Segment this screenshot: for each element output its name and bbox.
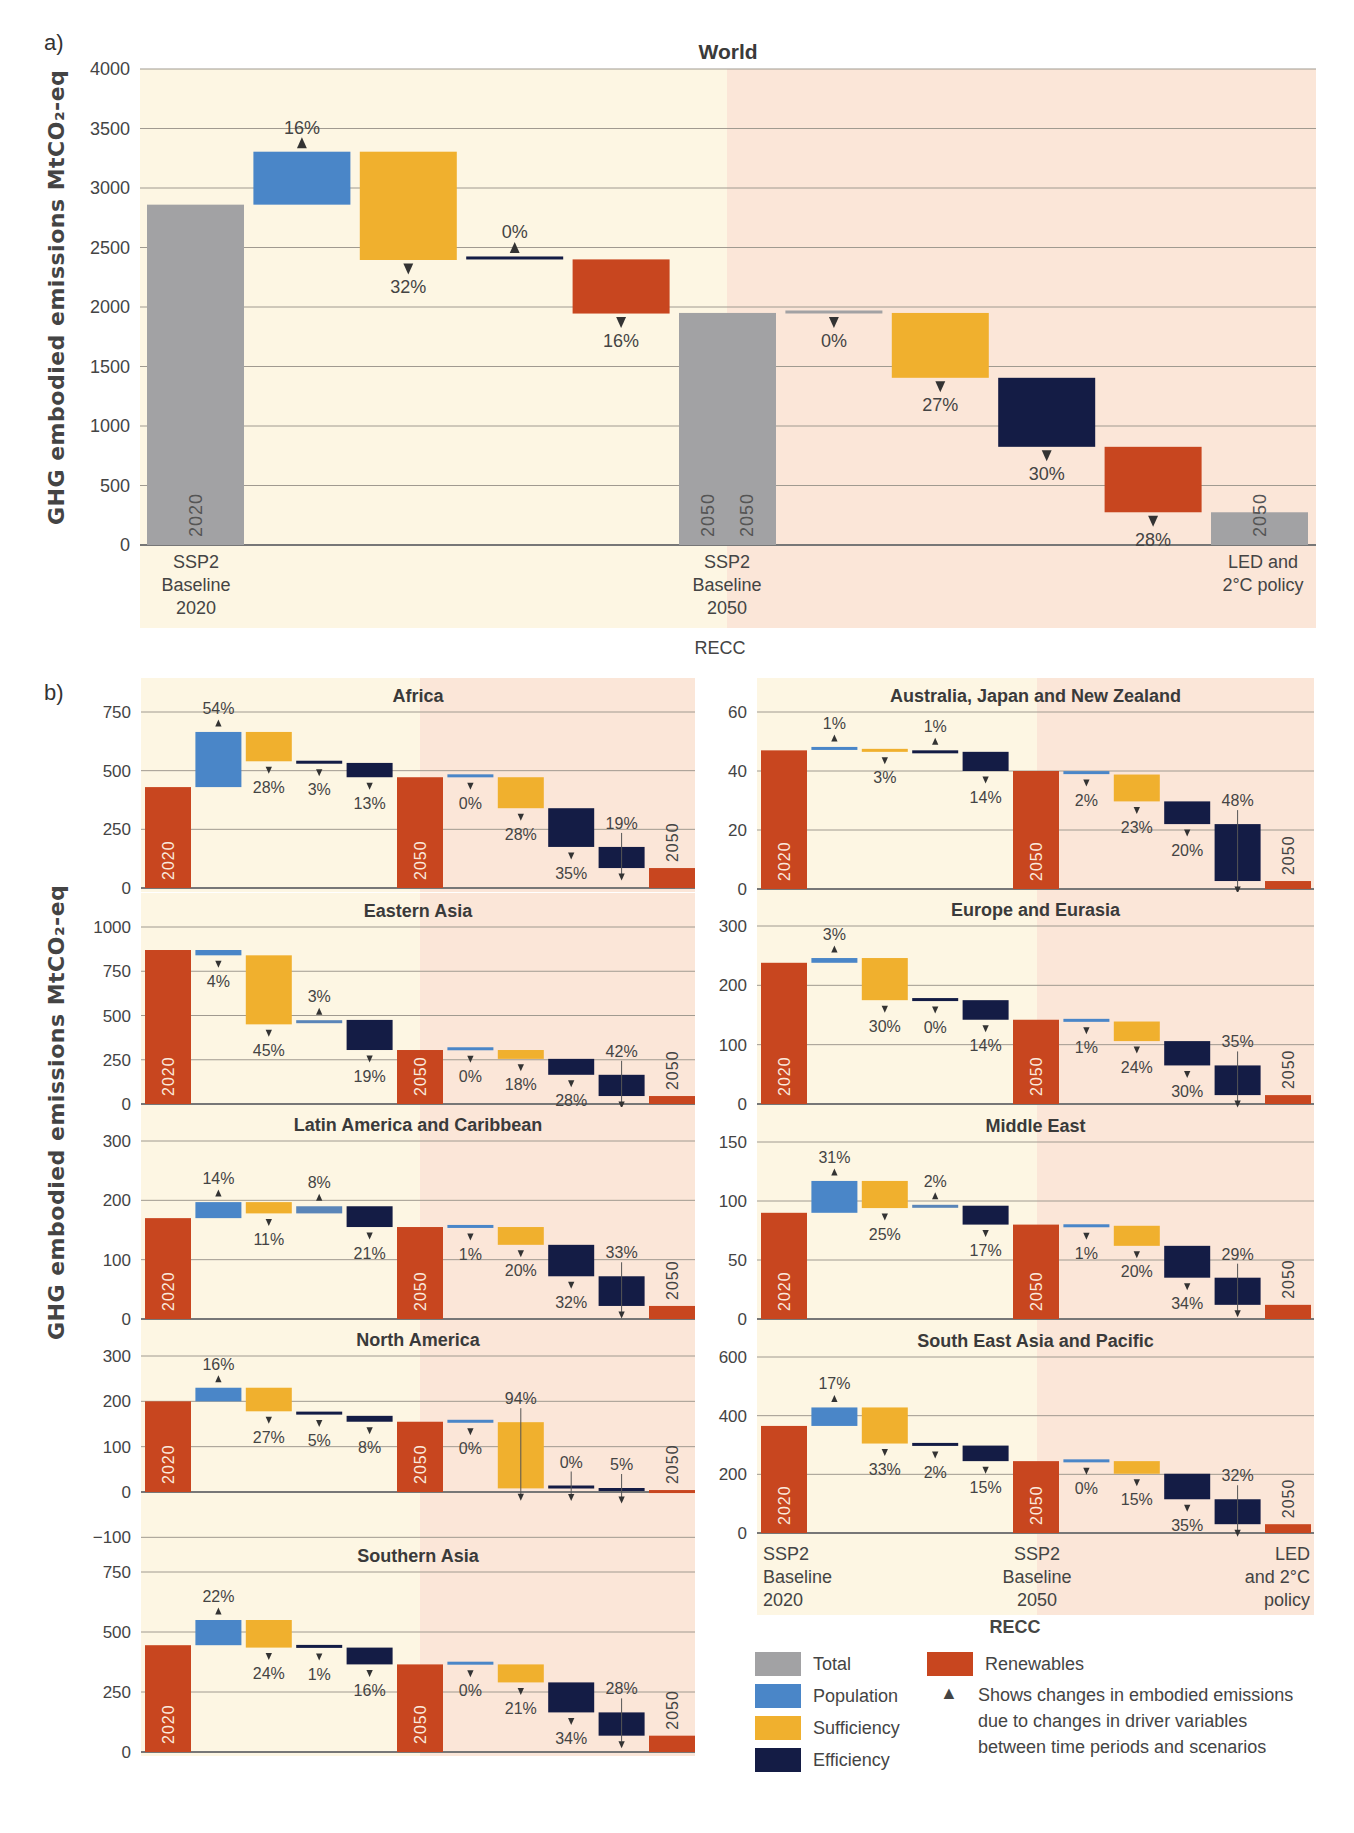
- bar-total: [679, 313, 776, 545]
- change-percent-label: 20%: [1121, 1263, 1153, 1280]
- x-category-label: policy: [1264, 1590, 1310, 1610]
- bar-sufficiency: [246, 1620, 292, 1648]
- change-percent-label: 20%: [1171, 842, 1203, 859]
- legend-label: Population: [813, 1686, 898, 1707]
- bar-efficiency: [296, 1412, 342, 1415]
- y-tick-label: 1500: [90, 357, 130, 377]
- y-tick-label: 100: [103, 1251, 131, 1270]
- bar-sufficiency: [862, 1181, 908, 1208]
- change-percent-label: 32%: [1222, 1467, 1254, 1484]
- change-percent-label: 28%: [253, 779, 285, 796]
- sufficiency-swatch: [755, 1716, 801, 1740]
- change-percent-label: 30%: [1171, 1083, 1203, 1100]
- bar-sufficiency: [1114, 1461, 1160, 1474]
- bar-efficiency: [998, 378, 1095, 447]
- y-tick-label: 0: [122, 1743, 131, 1762]
- change-percent-label: 1%: [924, 718, 947, 735]
- bar-year-label: 2050: [412, 1056, 429, 1096]
- change-percent-label: 14%: [970, 789, 1002, 806]
- efficiency-swatch: [755, 1748, 801, 1772]
- y-tick-label: 4000: [90, 59, 130, 79]
- waterfall-charts: World05001000150020002500300035004000202…: [0, 0, 1354, 1833]
- total-swatch: [755, 1652, 801, 1676]
- bar-population: [195, 1620, 241, 1645]
- bar-year-label: 2020: [160, 1704, 177, 1744]
- change-percent-label: 1%: [308, 1666, 331, 1683]
- change-percent-label: 2%: [1075, 792, 1098, 809]
- y-tick-label: 100: [719, 1036, 747, 1055]
- change-percent-label: 0%: [560, 1454, 583, 1471]
- bar-sufficiency: [1114, 775, 1160, 802]
- change-percent-label: 0%: [459, 1440, 482, 1457]
- y-tick-label: 60: [728, 703, 747, 722]
- bar-efficiency: [548, 808, 594, 847]
- change-percent-label: 8%: [358, 1439, 381, 1456]
- bar-population: [1063, 1224, 1109, 1227]
- bar-year-label: 2050: [1028, 1056, 1045, 1096]
- bar-year-label: 2020: [186, 493, 206, 537]
- change-percent-label: 42%: [606, 1043, 638, 1060]
- bar-efficiency: [296, 1645, 342, 1648]
- change-percent-label: 21%: [354, 1245, 386, 1262]
- legend-label: Efficiency: [813, 1750, 890, 1771]
- change-percent-label: 22%: [202, 1588, 234, 1605]
- chart-title: Europe and Eurasia: [951, 900, 1121, 920]
- bar-sufficiency: [862, 958, 908, 1000]
- bar-efficiency: [548, 1245, 594, 1276]
- bar-renewables: [573, 259, 670, 313]
- bar-efficiency: [347, 1020, 393, 1050]
- renewables-swatch: [927, 1652, 973, 1676]
- y-tick-label: 600: [719, 1348, 747, 1367]
- change-percent-label: 19%: [354, 1068, 386, 1085]
- legend-note: Shows changes in embodied emissions due …: [978, 1682, 1318, 1760]
- x-category-label: SSP2: [1014, 1544, 1060, 1564]
- chart-world: World05001000150020002500300035004000202…: [90, 40, 1316, 628]
- change-percent-label: 33%: [869, 1461, 901, 1478]
- bar-year-label: 2050: [737, 493, 757, 537]
- y-tick-label: 0: [738, 880, 747, 899]
- chart-africa: Africa0250500750202054%28%3%13%20500%28%…: [103, 678, 695, 898]
- change-percent-label: 15%: [970, 1479, 1002, 1496]
- change-percent-label: 28%: [505, 826, 537, 843]
- change-percent-label: 11%: [253, 1231, 284, 1248]
- y-tick-label: 200: [103, 1392, 131, 1411]
- y-tick-label: 400: [719, 1407, 747, 1426]
- change-percent-label: 25%: [869, 1226, 901, 1243]
- bar-sufficiency: [862, 749, 908, 752]
- bar-efficiency: [912, 750, 958, 753]
- chart-title: Southern Asia: [357, 1546, 479, 1566]
- bar-sufficiency: [1114, 1022, 1160, 1042]
- bar-year-label: 2020: [776, 1271, 793, 1311]
- y-tick-label: 2500: [90, 238, 130, 258]
- y-tick-label: 100: [103, 1438, 131, 1457]
- change-percent-label: 2%: [924, 1173, 947, 1190]
- y-tick-label: 200: [719, 1465, 747, 1484]
- bar-sufficiency: [246, 732, 292, 761]
- bar-efficiency: [347, 1648, 393, 1665]
- change-percent-label: 0%: [821, 331, 847, 351]
- y-tick-label: 250: [103, 1683, 131, 1702]
- background-policy-period: [1037, 892, 1314, 1108]
- bar-population: [1063, 1019, 1109, 1022]
- change-percent-label: 3%: [308, 781, 331, 798]
- bar-sufficiency: [498, 1227, 544, 1245]
- y-tick-label: 750: [103, 703, 131, 722]
- x-category-label: 2020: [763, 1590, 803, 1610]
- x-category-label: Baseline: [692, 575, 761, 595]
- change-percent-label: 1%: [823, 715, 846, 732]
- change-percent-label: 29%: [1222, 1246, 1254, 1263]
- background-policy-period: [420, 1107, 695, 1323]
- background-policy-period: [1037, 678, 1314, 893]
- chart-title: South East Asia and Pacific: [917, 1331, 1153, 1351]
- y-tick-label: 100: [719, 1192, 747, 1211]
- x-category-label: and 2°C: [1245, 1567, 1310, 1587]
- y-tick-label: 300: [103, 1132, 131, 1151]
- x-category-label: 2°C policy: [1222, 575, 1303, 595]
- bar-population: [811, 1181, 857, 1213]
- change-percent-label: 28%: [1135, 530, 1171, 550]
- y-tick-label: 300: [103, 1347, 131, 1366]
- bar-year-label: 2020: [160, 1444, 177, 1484]
- legend-item-renewables: Renewables: [927, 1652, 1084, 1676]
- x-category-label: LED: [1275, 1544, 1310, 1564]
- y-tick-label: 2000: [90, 297, 130, 317]
